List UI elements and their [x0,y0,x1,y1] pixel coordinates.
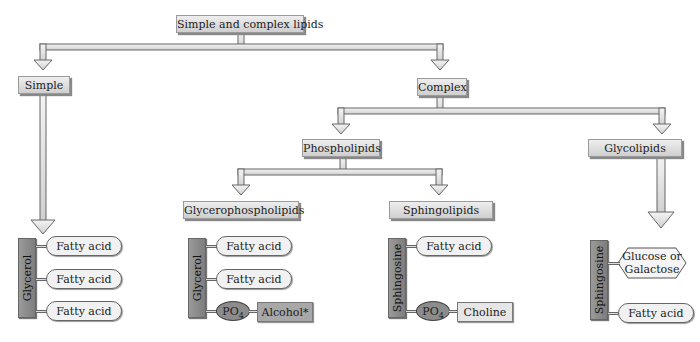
sugar-label: Glucose or Galactose [618,250,686,276]
node-simple: Simple [18,76,70,94]
sphingosine-backbone: Sphingosine [590,240,608,320]
node-glycerophospholipids: Glycerophospholipids [183,201,299,219]
node-phospholipids: Phospholipids [302,139,380,157]
fatty-acid-chain: Fatty acid [216,236,292,256]
choline-headgroup: Choline [457,302,513,322]
fatty-acid-chain: Fatty acid [46,269,122,289]
phosphate-group: PO4 [216,301,250,321]
phosphate-group: PO4 [416,301,450,321]
node-glycolipids: Glycolipids [588,139,682,157]
glycerol-backbone: Glycerol [188,238,206,318]
node-sphingolipids: Sphingolipids [389,201,493,219]
sphingosine-backbone: Sphingosine [388,238,406,318]
node-simple-and-complex-lipids: Simple and complex lipids [176,15,304,33]
fatty-acid-chain: Fatty acid [618,303,694,323]
sugar-line-1: Glucose or [618,250,686,263]
sugar-line-2: Galactose [618,263,686,276]
glycerol-backbone: Glycerol [18,238,36,318]
alcohol-headgroup: Alcohol* [257,302,313,322]
fatty-acid-chain: Fatty acid [416,236,492,256]
fatty-acid-chain: Fatty acid [216,269,292,289]
fatty-acid-chain: Fatty acid [46,301,122,321]
node-complex: Complex [417,78,467,96]
fatty-acid-chain: Fatty acid [46,236,122,256]
